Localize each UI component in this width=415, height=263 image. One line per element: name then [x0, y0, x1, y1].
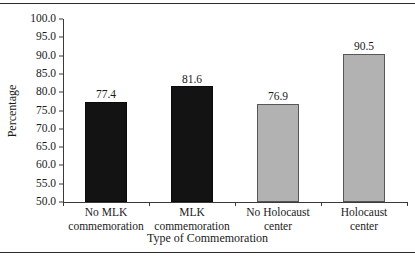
bar-value-label: 76.9	[268, 91, 288, 103]
bar: 77.4	[85, 102, 127, 202]
x-axis-category-label-line2: center	[309, 220, 415, 234]
bar: 90.5	[343, 54, 385, 202]
x-axis-category-label: Holocaustcenter	[309, 206, 415, 233]
y-axis-tick-mark	[59, 128, 63, 129]
y-axis-title: Percentage	[6, 36, 18, 186]
y-axis-tick-mark	[59, 183, 63, 184]
y-axis-tick-mark	[59, 110, 63, 111]
bar-value-label: 90.5	[354, 41, 374, 53]
y-axis-tick-mark	[59, 165, 63, 166]
plot-area: 100.095.090.085.080.075.070.065.060.055.…	[63, 19, 407, 202]
bottom-divider-rule	[0, 252, 415, 253]
y-axis-tick-mark	[59, 19, 63, 20]
top-divider-rule	[0, 3, 415, 4]
y-axis-tick-mark	[59, 73, 63, 74]
y-axis-tick-mark	[59, 147, 63, 148]
y-axis-tick-mark	[59, 55, 63, 56]
x-axis-title: Type of Commemoration	[0, 232, 415, 244]
y-axis-tick-mark	[59, 37, 63, 38]
bar: 81.6	[171, 86, 213, 202]
bar: 76.9	[257, 104, 299, 202]
bar-value-label: 77.4	[96, 89, 116, 101]
bar-value-label: 81.6	[182, 74, 202, 86]
y-axis-tick-mark	[59, 92, 63, 93]
bar-chart-figure: Percentage 100.095.090.085.080.075.070.0…	[0, 0, 415, 263]
x-axis-category-label-line1: Holocaust	[309, 206, 415, 220]
